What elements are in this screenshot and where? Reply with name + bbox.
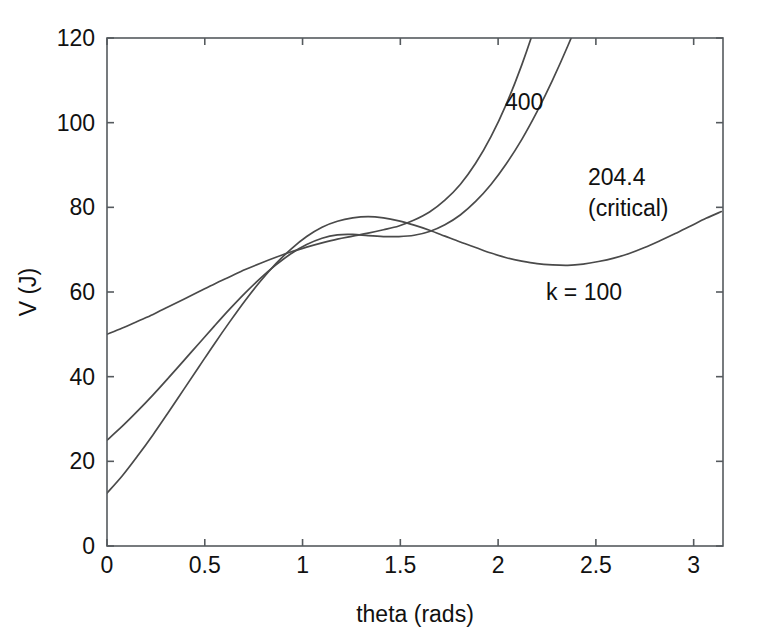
y-tick-label: 120 — [57, 25, 95, 51]
x-tick-label: 2.5 — [580, 552, 612, 578]
y-axis-title: V (J) — [15, 268, 41, 317]
x-tick-label: 0 — [101, 552, 114, 578]
annotation-curve-critical-note: (critical) — [588, 195, 669, 221]
annotation-curve-k100: k = 100 — [546, 279, 622, 305]
figure-container: 00.511.522.53020406080100120 theta (rads… — [0, 0, 762, 642]
x-axis-title: theta (rads) — [356, 601, 474, 627]
y-tick-label: 40 — [69, 364, 95, 390]
y-tick-label: 20 — [69, 448, 95, 474]
annotation-curve-400: 400 — [505, 89, 543, 115]
x-tick-label: 2 — [492, 552, 505, 578]
x-tick-label: 1.5 — [384, 552, 416, 578]
x-tick-label: 3 — [687, 552, 700, 578]
y-tick-label: 0 — [82, 533, 95, 559]
y-tick-label: 60 — [69, 279, 95, 305]
x-tick-label: 0.5 — [189, 552, 221, 578]
x-tick-label: 1 — [296, 552, 309, 578]
y-tick-label: 80 — [69, 194, 95, 220]
y-tick-label: 100 — [57, 110, 95, 136]
potential-energy-chart: 00.511.522.53020406080100120 theta (rads… — [0, 0, 762, 642]
annotation-curve-critical-value: 204.4 — [588, 164, 646, 190]
